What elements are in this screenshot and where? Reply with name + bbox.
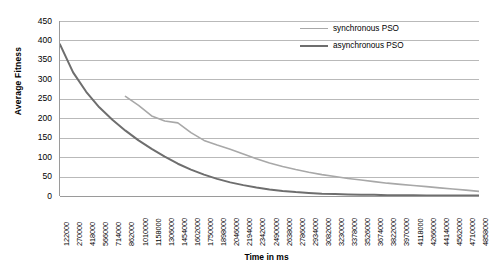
y-tick-label: 100 — [20, 153, 52, 162]
legend-item-synchronous: synchronous PSO — [300, 20, 430, 37]
x-tick-label: 1602000 — [194, 218, 202, 246]
x-tick-label: 1454000 — [181, 218, 189, 246]
x-tick-label: 3674000 — [377, 218, 385, 246]
x-tick-label: 122000 — [63, 222, 71, 246]
x-tick-label: 4414000 — [443, 218, 451, 246]
x-tick-label: 4858000 — [482, 218, 490, 246]
y-tick-label: 450 — [20, 17, 52, 26]
chart-legend: synchronous PSO asynchronous PSO — [300, 20, 430, 54]
x-tick-label: 1898000 — [220, 218, 228, 246]
x-tick-label: 3526000 — [364, 218, 372, 246]
x-tick-label: 2194000 — [246, 218, 254, 246]
x-tick-label: 714000 — [115, 222, 123, 246]
x-tick-label: 2934000 — [312, 218, 320, 246]
axis-baseline — [60, 196, 479, 197]
x-tick-label: 2786000 — [299, 218, 307, 246]
x-tick-label: 2342000 — [259, 218, 267, 246]
x-tick-label: 1750000 — [207, 218, 215, 246]
y-tick-label: 200 — [20, 114, 52, 123]
y-tick-label: 50 — [20, 172, 52, 181]
x-axis-title: Time in ms — [0, 252, 493, 262]
y-tick-label: 0 — [20, 192, 52, 201]
x-tick-label: 3082000 — [325, 218, 333, 246]
x-tick-label: 4562000 — [456, 218, 464, 246]
x-tick-label: 566000 — [102, 222, 110, 246]
chart-container: Average Fitness 050100150200250300350400… — [0, 0, 493, 273]
y-tick-label: 150 — [20, 133, 52, 142]
y-tick-label: 250 — [20, 94, 52, 103]
y-tick-label: 300 — [20, 75, 52, 84]
x-tick-label: 862000 — [128, 222, 136, 246]
x-tick-label: 4266000 — [430, 218, 438, 246]
legend-label-synchronous: synchronous PSO — [333, 24, 399, 33]
x-tick-label: 3230000 — [338, 218, 346, 246]
y-tick-label: 350 — [20, 55, 52, 64]
x-axis-tick-labels: 1220002700004180005660007140008620001010… — [59, 198, 478, 250]
x-tick-label: 3378000 — [351, 218, 359, 246]
x-tick-label: 2638000 — [286, 218, 294, 246]
x-tick-label: 1158000 — [155, 218, 163, 246]
legend-label-asynchronous: asynchronous PSO — [333, 41, 404, 50]
x-tick-label: 1306000 — [168, 218, 176, 246]
x-tick-label: 4118000 — [417, 218, 425, 246]
y-tick-label: 400 — [20, 36, 52, 45]
series-line — [60, 44, 479, 195]
x-tick-label: 3970000 — [403, 218, 411, 246]
x-tick-label: 3822000 — [390, 218, 398, 246]
x-tick-label: 270000 — [76, 222, 84, 246]
legend-item-asynchronous: asynchronous PSO — [300, 37, 430, 54]
x-tick-label: 2490000 — [273, 218, 281, 246]
x-tick-label: 4710000 — [469, 218, 477, 246]
legend-swatch-asynchronous — [300, 45, 328, 47]
x-tick-label: 418000 — [89, 222, 97, 246]
series-line — [125, 96, 479, 191]
legend-swatch-synchronous — [300, 28, 328, 29]
x-tick-label: 1010000 — [142, 218, 150, 246]
x-tick-label: 2046000 — [233, 218, 241, 246]
